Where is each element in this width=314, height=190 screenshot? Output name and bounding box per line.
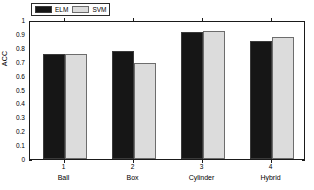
y-tick: 0.6 xyxy=(0,77,29,78)
y-tick-label: 0.5 xyxy=(16,86,25,95)
y-tick: 0.2 xyxy=(0,132,29,133)
bar-chart-figure: ACC 00.10.20.30.40.50.60.70.80.91 1Ball2… xyxy=(0,0,314,190)
y-tick-mark-right xyxy=(302,160,305,161)
x-category-label: Box xyxy=(103,174,163,181)
y-tick-label: 0 xyxy=(21,155,25,164)
legend-item-elm[interactable]: ELM xyxy=(35,6,68,14)
x-tick-mark-top xyxy=(133,18,134,21)
x-tick-mark-top xyxy=(271,18,272,21)
plot-area xyxy=(29,21,305,160)
x-tick-mark-top xyxy=(202,18,203,21)
y-tick: 0 xyxy=(0,160,29,161)
bar-elm-ball xyxy=(43,54,65,159)
y-tick-label: 0.3 xyxy=(16,113,25,122)
legend-label-elm: ELM xyxy=(55,6,68,14)
x-tick-label: 2 xyxy=(113,163,153,170)
legend-swatch-svm xyxy=(72,6,89,13)
y-tick: 1 xyxy=(0,21,29,22)
legend-swatch-elm xyxy=(35,6,52,13)
y-tick-label: 1 xyxy=(21,16,25,25)
x-tick-label: 3 xyxy=(182,163,222,170)
y-tick-label: 0.7 xyxy=(16,58,25,67)
y-tick-label: 0.4 xyxy=(16,99,25,108)
bar-svm-box xyxy=(134,63,156,159)
y-tick-label: 0.1 xyxy=(16,141,25,150)
y-tick: 0.7 xyxy=(0,63,29,64)
bar-elm-cylinder xyxy=(181,32,203,159)
x-category-label: Ball xyxy=(34,174,94,181)
legend-label-svm: SVM xyxy=(92,6,106,14)
x-tick-label: 4 xyxy=(251,163,291,170)
x-category-label: Cylinder xyxy=(172,174,232,181)
legend-item-svm[interactable]: SVM xyxy=(72,6,106,14)
x-category-label: Hybrid xyxy=(241,174,301,181)
y-tick: 0.3 xyxy=(0,118,29,119)
x-tick-label: 1 xyxy=(44,163,84,170)
y-tick: 0.5 xyxy=(0,91,29,92)
y-tick: 0.1 xyxy=(0,146,29,147)
bar-svm-cylinder xyxy=(203,31,225,159)
y-tick: 0.8 xyxy=(0,49,29,50)
bar-elm-hybrid xyxy=(250,41,272,159)
x-tick-mark-top xyxy=(64,18,65,21)
y-tick: 0.4 xyxy=(0,104,29,105)
y-tick-mark xyxy=(29,160,32,161)
y-tick-label: 0.8 xyxy=(16,44,25,53)
bar-svm-hybrid xyxy=(272,37,294,159)
y-tick-label: 0.2 xyxy=(16,127,25,136)
y-tick-label: 0.9 xyxy=(16,30,25,39)
y-tick: 0.9 xyxy=(0,35,29,36)
y-tick-label: 0.6 xyxy=(16,72,25,81)
bar-elm-box xyxy=(112,51,134,159)
bar-svm-ball xyxy=(65,54,87,159)
chart-legend[interactable]: ELMSVM xyxy=(31,3,110,16)
y-axis-label: ACC xyxy=(1,39,8,79)
